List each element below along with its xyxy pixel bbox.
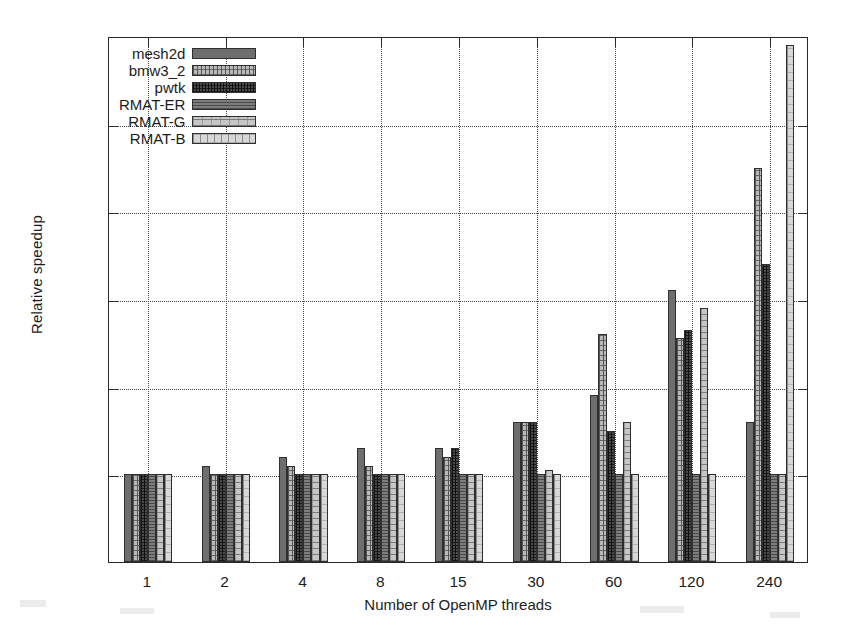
bar bbox=[754, 168, 762, 563]
y-tick-mark bbox=[109, 301, 118, 302]
scan-artifact bbox=[20, 600, 46, 607]
bar bbox=[553, 474, 561, 562]
bar bbox=[607, 431, 615, 563]
bar bbox=[513, 422, 521, 562]
bar bbox=[365, 466, 373, 562]
x-tick-label: 120 bbox=[656, 573, 726, 591]
bar bbox=[521, 422, 529, 562]
bar bbox=[668, 290, 676, 562]
x-tick-mark bbox=[615, 38, 616, 47]
legend-item[interactable]: pwtk bbox=[119, 80, 256, 95]
x-tick-label: 30 bbox=[501, 573, 571, 591]
bar bbox=[708, 474, 716, 562]
bar bbox=[140, 474, 148, 562]
bar bbox=[279, 457, 287, 562]
bar bbox=[746, 422, 754, 562]
x-tick-mark bbox=[459, 38, 460, 47]
bar bbox=[357, 448, 365, 562]
bar bbox=[598, 334, 606, 562]
bar bbox=[156, 474, 164, 562]
bar bbox=[537, 474, 545, 562]
bar bbox=[770, 474, 778, 562]
bar bbox=[234, 474, 242, 562]
x-tick-mark bbox=[381, 38, 382, 47]
bar bbox=[210, 474, 218, 562]
bar bbox=[164, 474, 172, 562]
legend-swatch-icon bbox=[192, 99, 256, 110]
bar bbox=[132, 474, 140, 562]
legend-label: mesh2d bbox=[132, 45, 192, 62]
legend-swatch-icon bbox=[192, 116, 256, 127]
legend-item[interactable]: RMAT-ER bbox=[119, 97, 256, 112]
bar bbox=[692, 474, 700, 562]
bar bbox=[311, 474, 319, 562]
legend-item[interactable]: RMAT-G bbox=[119, 114, 256, 129]
y-tick-mark bbox=[798, 213, 807, 214]
bar bbox=[381, 474, 389, 562]
y-tick-mark bbox=[798, 476, 807, 477]
bar bbox=[684, 330, 692, 562]
legend-label: RMAT-ER bbox=[119, 96, 192, 113]
bar bbox=[529, 422, 537, 562]
bar bbox=[676, 338, 684, 562]
plot-area: mesh2d bmw3_2 pwtk RMAT-ER RMAT-G RMAT-B bbox=[108, 37, 808, 563]
bar bbox=[778, 474, 786, 562]
legend-label: pwtk bbox=[155, 79, 193, 96]
x-tick-label: 1 bbox=[112, 573, 182, 591]
bar bbox=[700, 308, 708, 562]
bar bbox=[443, 457, 451, 562]
y-axis-title: Relative speedup bbox=[28, 165, 45, 385]
bar bbox=[226, 474, 234, 562]
x-tick-mark bbox=[692, 38, 693, 47]
bar bbox=[148, 474, 156, 562]
bar bbox=[242, 474, 250, 562]
legend-swatch-icon bbox=[192, 65, 256, 76]
legend-swatch-icon bbox=[192, 48, 256, 59]
legend-swatch-icon bbox=[192, 82, 256, 93]
gridline-horizontal bbox=[109, 213, 807, 214]
x-tick-label: 15 bbox=[423, 573, 493, 591]
bar bbox=[623, 422, 631, 562]
bar bbox=[287, 466, 295, 562]
x-tick-mark bbox=[537, 38, 538, 47]
y-tick-mark bbox=[109, 389, 118, 390]
y-tick-mark bbox=[798, 126, 807, 127]
bar bbox=[451, 448, 459, 562]
x-tick-label: 240 bbox=[734, 573, 804, 591]
legend-item[interactable]: mesh2d bbox=[119, 46, 256, 61]
chart-figure: Relative speedup Number of OpenMP thread… bbox=[0, 0, 853, 626]
y-tick-mark bbox=[109, 213, 118, 214]
bar bbox=[467, 474, 475, 562]
bar bbox=[295, 474, 303, 562]
bar bbox=[615, 474, 623, 562]
legend-item[interactable]: RMAT-B bbox=[119, 131, 256, 146]
bar bbox=[373, 474, 381, 562]
legend: mesh2d bmw3_2 pwtk RMAT-ER RMAT-G RMAT-B bbox=[113, 42, 264, 151]
bar bbox=[320, 474, 328, 562]
y-tick-mark bbox=[798, 389, 807, 390]
x-tick-label: 2 bbox=[190, 573, 260, 591]
legend-label: bmw3_2 bbox=[129, 62, 193, 79]
bar bbox=[435, 448, 443, 562]
x-tick-mark bbox=[770, 38, 771, 47]
legend-item[interactable]: bmw3_2 bbox=[119, 63, 256, 78]
x-tick-mark bbox=[303, 38, 304, 47]
legend-swatch-icon bbox=[192, 133, 256, 144]
bar bbox=[459, 474, 467, 562]
x-tick-label: 60 bbox=[579, 573, 649, 591]
legend-label: RMAT-G bbox=[128, 113, 192, 130]
bar bbox=[590, 395, 598, 562]
gridline-horizontal bbox=[109, 301, 807, 302]
bar bbox=[124, 474, 132, 562]
bar bbox=[631, 474, 639, 562]
bar bbox=[218, 474, 226, 562]
x-tick-label: 4 bbox=[267, 573, 337, 591]
bar bbox=[303, 474, 311, 562]
bar bbox=[202, 466, 210, 562]
y-tick-mark bbox=[109, 476, 118, 477]
bar bbox=[762, 264, 770, 562]
bar bbox=[545, 470, 553, 562]
bar bbox=[397, 474, 405, 562]
legend-label: RMAT-B bbox=[130, 130, 193, 147]
x-axis-title: Number of OpenMP threads bbox=[108, 596, 808, 613]
